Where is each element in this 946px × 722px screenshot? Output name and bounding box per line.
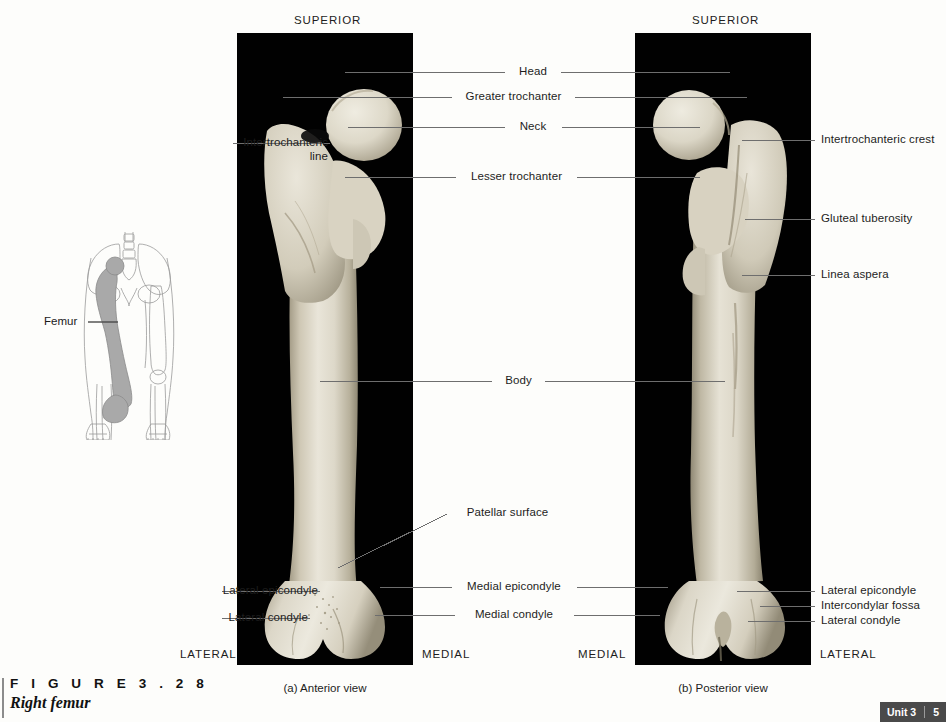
label-lateral-epicondyle-right: Lateral epicondyle: [821, 584, 946, 598]
label-intertrochanteric-line: Intertrochanteric line: [128, 136, 328, 163]
unit-label: Unit 3: [887, 706, 916, 718]
label-body: Body: [490, 374, 547, 388]
figure-right-femur: SUPERIOR SUPERIOR LATERAL MEDIAL MEDIAL …: [0, 0, 946, 722]
view-caption-anterior: (a) Anterior view: [255, 682, 395, 694]
label-gluteal-tuberosity: Gluteal tuberosity: [821, 212, 946, 226]
label-intertrochanteric-crest: Intertrochanteric crest: [821, 133, 946, 147]
label-lesser-trochanter: Lesser trochanter: [454, 170, 579, 184]
highlighted-femur: [96, 257, 132, 423]
label-head: Head: [503, 65, 563, 79]
tab-divider: [924, 706, 925, 718]
label-linea-aspera: Linea aspera: [821, 268, 946, 282]
caption-rule: [2, 678, 4, 718]
label-neck: Neck: [503, 120, 563, 134]
label-patellar-surface: Patellar surface: [450, 506, 565, 520]
orientation-superior-anterior: SUPERIOR: [294, 14, 361, 26]
unit-page-tab: Unit 3 5: [880, 702, 946, 722]
label-lateral-condyle-right: Lateral condyle: [821, 614, 946, 628]
view-caption-posterior: (b) Posterior view: [653, 682, 793, 694]
figure-number: F I G U R E 3 . 2 8: [10, 676, 208, 691]
label-femur-inset: Femur: [44, 315, 77, 327]
inset-skeleton-diagram: [55, 228, 203, 440]
orientation-medial-anterior: MEDIAL: [422, 648, 470, 660]
page-number: 5: [933, 706, 939, 718]
orientation-lateral-anterior: LATERAL: [180, 648, 237, 660]
label-greater-trochanter: Greater trochanter: [450, 90, 577, 104]
lower-body-skeleton: [55, 228, 203, 440]
label-intercondylar-fossa: Intercondylar fossa: [821, 599, 946, 613]
figure-caption: F I G U R E 3 . 2 8 Right femur: [10, 676, 208, 712]
label-medial-condyle: Medial condyle: [453, 608, 575, 622]
figure-title: Right femur: [10, 694, 208, 712]
orientation-superior-posterior: SUPERIOR: [692, 14, 759, 26]
orientation-lateral-posterior: LATERAL: [820, 648, 877, 660]
label-medial-epicondyle: Medial epicondyle: [450, 580, 578, 594]
label-lateral-epicondyle-left: Lateral epicondyle: [118, 584, 318, 598]
label-lateral-condyle-left: Lateral condyle: [108, 611, 308, 625]
orientation-medial-posterior: MEDIAL: [578, 648, 626, 660]
